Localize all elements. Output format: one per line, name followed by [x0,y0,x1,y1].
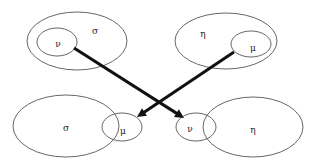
label-sigma-bottom-left: σ [63,123,69,133]
label-eta-top-right: η [200,29,205,39]
group-bottom-right: ν η [176,97,303,157]
label-nu-bottom-right: ν [187,124,192,134]
set-mapping-diagram: σ ν η μ σ μ ν η [0,0,319,167]
label-mu-top-right: μ [250,43,256,53]
group-top-left: σ ν [27,12,127,70]
arrow-nu-to-nu [74,48,179,115]
label-sigma-top-left: σ [92,26,98,36]
mapping-arrows [74,48,234,118]
label-mu-bottom-left: μ [120,126,126,136]
label-nu-top-left: ν [55,39,60,49]
group-top-right: η μ [175,13,277,69]
label-eta-bottom-right: η [250,125,255,135]
set-eta-top-right [175,13,277,69]
group-bottom-left: σ μ [13,95,142,157]
